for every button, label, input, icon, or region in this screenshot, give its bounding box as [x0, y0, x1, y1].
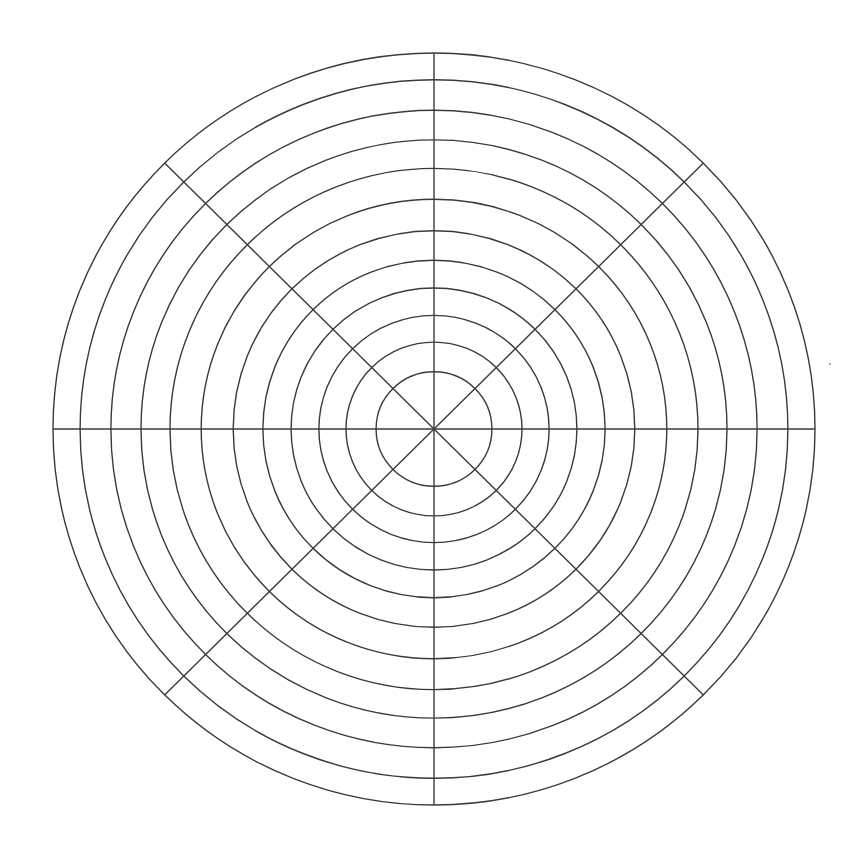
radial-spokes — [53, 53, 815, 805]
polar-grid-diagram — [0, 0, 861, 853]
stray-speck — [829, 363, 831, 365]
